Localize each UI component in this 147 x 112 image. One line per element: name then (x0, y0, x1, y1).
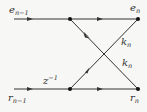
label-r-n-minus-1: rn−1 (8, 92, 27, 105)
label-r-n: rn (130, 92, 139, 105)
arrow-icon (27, 17, 33, 21)
node-top-left (68, 17, 72, 21)
lattice-diagram: en−1 en kn kn z−1 rn−1 rn (0, 0, 147, 112)
top-branch (14, 17, 138, 21)
arrow-icon (97, 87, 103, 91)
label-k-n-lower: kn (122, 57, 132, 70)
arrow-icon (97, 17, 103, 21)
node-top-right (136, 17, 140, 21)
cross-branches (70, 19, 138, 89)
label-e-n: en (130, 2, 140, 15)
label-k-n-upper: kn (121, 36, 131, 49)
node-bottom-right (136, 87, 140, 91)
arrow-icon (85, 68, 90, 74)
label-z-inverse: z−1 (42, 74, 58, 86)
bottom-branch (14, 87, 138, 91)
node-bottom-left (68, 87, 72, 91)
label-e-n-minus-1: en−1 (9, 4, 29, 17)
arrow-icon (27, 87, 33, 91)
